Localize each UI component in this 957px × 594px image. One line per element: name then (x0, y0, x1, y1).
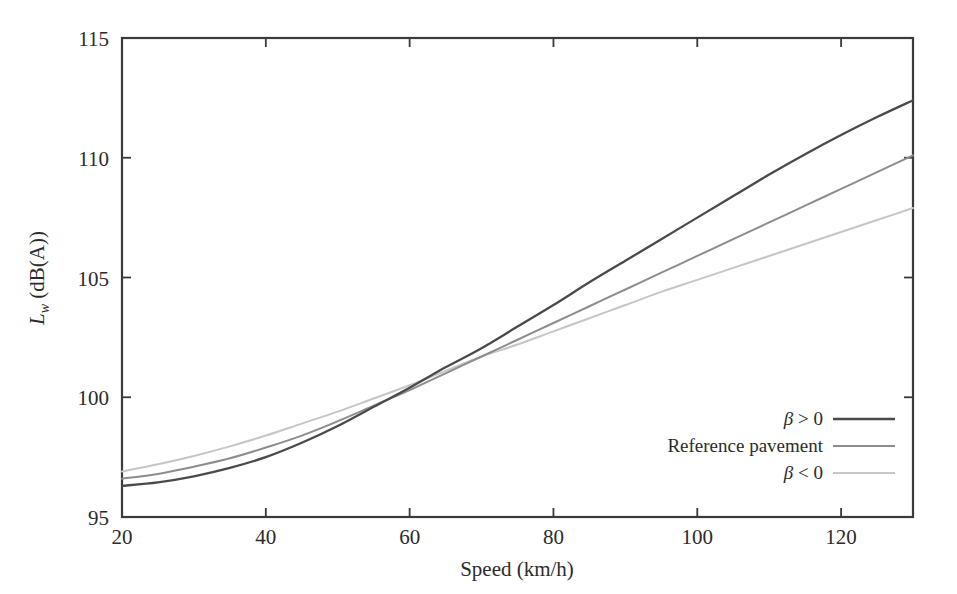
x-tick-label: 20 (112, 525, 133, 549)
legend-label: β < 0 (783, 462, 823, 483)
y-axis-title-unit: (dB(A)) (25, 231, 49, 304)
y-axis-title-symbol: L (25, 313, 49, 326)
x-tick-label: 80 (543, 525, 564, 549)
x-tick-label: 100 (682, 525, 714, 549)
y-tick-label: 95 (88, 506, 109, 530)
lw-vs-speed-chart: 20406080100120 11511010510095 Speed (km/… (0, 0, 957, 594)
chart-figure: 20406080100120 11511010510095 Speed (km/… (0, 0, 957, 594)
x-axis-title: Speed (km/h) (460, 557, 574, 581)
chart-background (0, 0, 957, 594)
y-tick-label: 110 (78, 147, 109, 171)
legend-label: Reference pavement (667, 435, 823, 456)
x-tick-label: 120 (825, 525, 857, 549)
y-tick-label: 105 (78, 267, 110, 291)
x-tick-label: 60 (399, 525, 420, 549)
legend-label: β > 0 (783, 408, 823, 429)
y-tick-label: 115 (78, 27, 109, 51)
x-tick-label: 40 (255, 525, 276, 549)
y-tick-label: 100 (78, 386, 110, 410)
